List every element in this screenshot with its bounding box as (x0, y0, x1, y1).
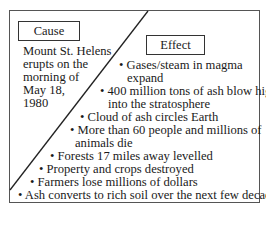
effect-label-box: Effect (146, 35, 205, 55)
cause-line: 1980 (23, 97, 48, 110)
cause-label-box: Cause (18, 21, 80, 41)
effect-item: • Ash converts to rich soil over the nex… (18, 189, 266, 202)
